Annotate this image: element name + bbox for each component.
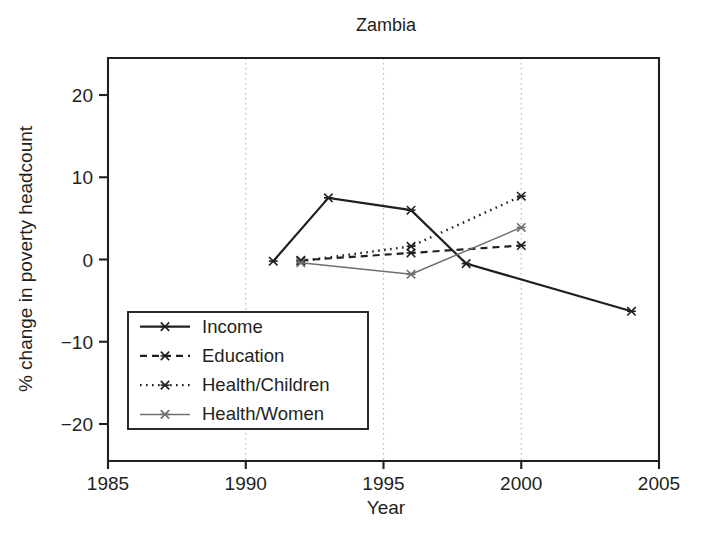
legend-label: Education bbox=[202, 345, 284, 366]
x-tick-label-1985: 1985 bbox=[87, 473, 129, 494]
chart-container: Zambia 19851990199520002005 20100−10−20 … bbox=[0, 0, 716, 535]
chart-legend: IncomeEducationHealth/ChildrenHealth/Wom… bbox=[128, 312, 368, 429]
chart-title: Zambia bbox=[356, 15, 417, 35]
y-tick-label--10: −10 bbox=[61, 332, 93, 353]
y-tick-label--20: −20 bbox=[61, 414, 93, 435]
y-tick-label-0: 0 bbox=[82, 250, 93, 271]
y-tick-label-10: 10 bbox=[72, 167, 93, 188]
y-tick-label-20: 20 bbox=[72, 85, 93, 106]
legend-label: Health/Women bbox=[202, 403, 324, 424]
y-axis-label: % change in poverty headcount bbox=[15, 125, 36, 392]
x-tick-label-1995: 1995 bbox=[362, 473, 404, 494]
x-axis-label: Year bbox=[367, 497, 406, 518]
zambia-line-chart: Zambia 19851990199520002005 20100−10−20 … bbox=[0, 0, 716, 535]
legend-label: Health/Children bbox=[202, 374, 330, 395]
legend-label: Income bbox=[202, 316, 263, 337]
x-tick-label-2000: 2000 bbox=[500, 473, 542, 494]
x-tick-label-2005: 2005 bbox=[638, 473, 680, 494]
x-tick-label-1990: 1990 bbox=[225, 473, 267, 494]
